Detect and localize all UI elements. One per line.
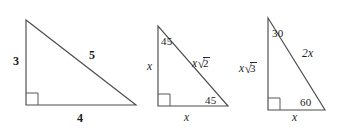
triangle-454590-hypotenuse-label: x√2 — [192, 57, 211, 70]
triangle-345-right-angle-marker — [26, 93, 38, 105]
radical-coefficient: x — [192, 57, 197, 69]
triangle-454590-horizontal-leg-label: x — [184, 112, 189, 124]
triangle-454590-right-angle-marker — [158, 94, 170, 106]
triangle-306090-right-angle-marker — [268, 98, 280, 110]
radical-radicand: 2 — [203, 57, 210, 70]
triangle-306090-vertical-leg-label: x√3 — [239, 62, 258, 75]
triangle-454590-top-angle-label: 45 — [161, 36, 172, 47]
triangle-454590-vertical-leg-label: x — [147, 61, 152, 73]
triangle-454590-bottom-right-angle-label: 45 — [205, 95, 216, 106]
radical-coefficient: x — [239, 62, 244, 74]
radical-expression-x-sqrt2: x√2 — [192, 57, 211, 70]
triangle-306090-top-angle-label: 30 — [272, 28, 283, 39]
triangle-345-vertical-leg-label: 3 — [13, 55, 19, 67]
radical-radicand: 3 — [250, 62, 257, 75]
triangle-306090-hypotenuse-label: 2x — [302, 48, 313, 60]
triangle-306090-bottom-right-angle-label: 60 — [300, 97, 311, 108]
triangle-345-horizontal-leg-label: 4 — [77, 112, 83, 124]
radical-expression-x-sqrt3: x√3 — [239, 62, 258, 75]
triangle-345-outline — [26, 20, 136, 105]
triangles-drawing — [0, 0, 342, 132]
triangle-345-shape — [26, 20, 136, 105]
triangle-345-hypotenuse-label: 5 — [89, 49, 95, 61]
triangles-figure: 3 4 5 45 x x 45 x√2 30 x√3 x 60 2x — [0, 0, 342, 132]
triangle-306090-horizontal-leg-label: x — [292, 112, 297, 124]
